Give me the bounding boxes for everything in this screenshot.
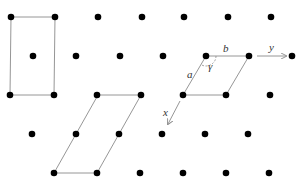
lattice-point	[202, 131, 209, 138]
lattice-point	[160, 53, 167, 60]
lattice-point	[29, 131, 36, 138]
lattice-canvas: a b γ x y	[0, 0, 305, 189]
lattice-point	[94, 92, 101, 99]
lattice-point	[289, 53, 296, 60]
x-axis-arrow	[168, 101, 180, 124]
lattice-point	[225, 14, 232, 21]
lattice-point	[95, 14, 102, 21]
label-a: a	[187, 68, 193, 80]
lattice-point	[51, 92, 58, 99]
lattice-point	[139, 14, 146, 21]
lattice-point	[73, 53, 80, 60]
lattice-point	[7, 92, 14, 99]
label-b: b	[223, 42, 229, 54]
lattice-point	[117, 53, 124, 60]
unit-cells	[10, 17, 249, 173]
lattice-point	[51, 170, 58, 177]
lattice-point	[246, 53, 253, 60]
lattice-point	[138, 92, 145, 99]
lattice-point	[116, 131, 123, 138]
labels: a b γ x y	[162, 41, 274, 118]
lattice-point	[94, 170, 101, 177]
lattice-point	[203, 53, 210, 60]
primitive-cell	[183, 56, 249, 95]
lattice-point	[159, 131, 166, 138]
label-x: x	[162, 106, 168, 118]
elongated-parallelogram-cell	[54, 95, 141, 173]
lattice-point	[268, 14, 275, 21]
lattice-point	[73, 131, 80, 138]
lattice-point	[267, 92, 274, 99]
lattice-point	[52, 14, 59, 21]
lattice-point	[223, 92, 230, 99]
lattice-point	[223, 170, 230, 177]
lattice-point	[8, 14, 15, 21]
label-y: y	[268, 41, 274, 53]
lattice-point	[180, 92, 187, 99]
lattice-point	[180, 170, 187, 177]
lattice-point	[137, 170, 144, 177]
lattice-point	[245, 131, 252, 138]
lattice-point	[266, 170, 273, 177]
lattice-point	[30, 53, 37, 60]
label-gamma: γ	[208, 60, 213, 72]
lattice-point	[181, 14, 188, 21]
lattice-diagram: a b γ x y	[0, 0, 305, 189]
